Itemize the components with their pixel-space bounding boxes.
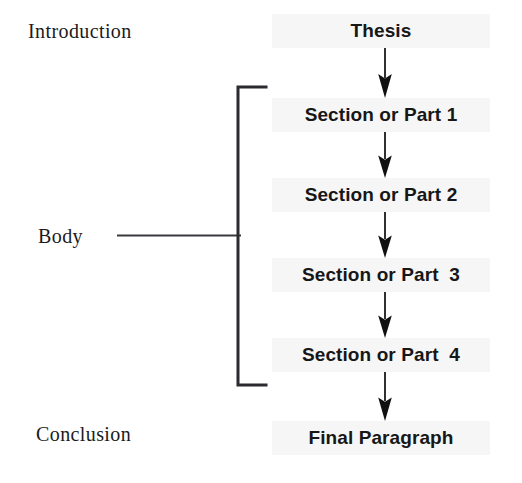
arrow-down-icon	[371, 372, 399, 421]
flow-node-label: Section or Part 1	[305, 104, 458, 126]
flow-node-label: Section or Part 4	[302, 344, 460, 366]
flow-node-section-1[interactable]: Section or Part 1	[272, 98, 490, 132]
flow-node-label: Section or Part 2	[305, 184, 458, 206]
body-bracket	[234, 85, 268, 387]
flow-node-label: Thesis	[351, 20, 412, 42]
arrow-down-icon	[371, 212, 399, 258]
arrow-down-icon	[371, 48, 399, 98]
flow-node-label: Section or Part 3	[302, 264, 460, 286]
flow-node-label: Final Paragraph	[308, 427, 453, 449]
stage-label-body: Body	[38, 225, 83, 248]
diagram-canvas: Introduction Body Conclusion Thesis Sect…	[0, 0, 522, 483]
flow-node-final-paragraph[interactable]: Final Paragraph	[272, 421, 490, 455]
body-connector-line	[117, 234, 241, 237]
flow-node-section-4[interactable]: Section or Part 4	[272, 338, 490, 372]
stage-label-introduction: Introduction	[28, 20, 132, 43]
flow-node-section-2[interactable]: Section or Part 2	[272, 178, 490, 212]
stage-label-conclusion: Conclusion	[36, 423, 131, 446]
arrow-down-icon	[371, 292, 399, 338]
flow-node-thesis[interactable]: Thesis	[272, 14, 490, 48]
flow-node-section-3[interactable]: Section or Part 3	[272, 258, 490, 292]
arrow-down-icon	[371, 132, 399, 178]
